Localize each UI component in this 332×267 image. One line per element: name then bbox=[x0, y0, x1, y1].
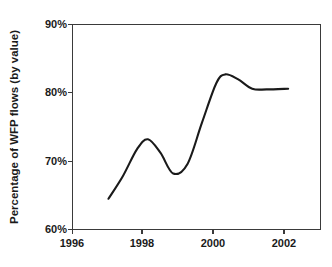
chart-figure: Percentage of WFP flows (by value) 90% 8… bbox=[0, 0, 332, 267]
x-tick-label-2002: 2002 bbox=[272, 237, 296, 249]
plot-frame bbox=[73, 25, 321, 230]
x-tick-label-1996: 1996 bbox=[60, 237, 84, 249]
x-tick-label-2000: 2000 bbox=[201, 237, 225, 249]
y-axis-title: Percentage of WFP flows (by value) bbox=[8, 30, 20, 224]
y-tick-label-90: 90% bbox=[45, 18, 67, 30]
y-tick-label-70: 70% bbox=[45, 155, 67, 167]
data-series-line bbox=[108, 74, 288, 198]
y-tick-label-80: 80% bbox=[45, 86, 67, 98]
chart-svg: Percentage of WFP flows (by value) 90% 8… bbox=[0, 0, 332, 267]
y-tick-label-60: 60% bbox=[45, 223, 67, 235]
x-tick-label-1998: 1998 bbox=[130, 237, 154, 249]
